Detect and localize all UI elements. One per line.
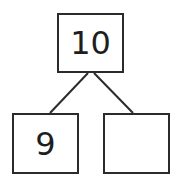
part-box-right-empty[interactable] <box>103 113 170 174</box>
number-bond-diagram: 10 9 <box>0 0 186 188</box>
connector-left <box>50 73 88 113</box>
part-box-left: 9 <box>12 113 79 174</box>
whole-box: 10 <box>57 13 124 73</box>
connector-right <box>94 73 133 113</box>
part-value-left: 9 <box>35 128 55 160</box>
whole-value: 10 <box>70 27 111 59</box>
